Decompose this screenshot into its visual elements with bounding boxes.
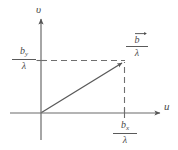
vector-arrow	[42, 63, 123, 113]
vector-numerator-base: b	[135, 34, 140, 45]
vector-denominator: λ	[126, 47, 148, 58]
y-tick-label-by-over-lambda: by λ	[12, 45, 36, 71]
diagram-canvas	[0, 0, 178, 150]
y-tick-denominator: λ	[12, 60, 36, 71]
x-tick-numerator: bx	[113, 119, 137, 132]
y-tick-numerator: by	[12, 45, 36, 58]
vector-diagram-figure: υ u by λ bx λ b λ	[0, 0, 178, 150]
u-axis-label: u	[164, 101, 170, 112]
x-tick-label-bx-over-lambda: bx λ	[113, 119, 137, 145]
vector-label-b-over-lambda: b λ	[126, 34, 148, 58]
vector-b-with-overarrow: b	[135, 34, 140, 45]
x-tick-numerator-subscript: x	[126, 124, 129, 132]
x-tick-denominator: λ	[113, 134, 137, 145]
over-arrow-icon	[135, 31, 147, 35]
y-tick-numerator-subscript: y	[25, 50, 28, 58]
v-axis-label: υ	[36, 4, 41, 15]
vector-numerator: b	[126, 34, 148, 45]
